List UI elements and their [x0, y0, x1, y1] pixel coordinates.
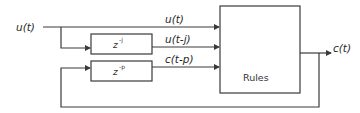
rules-label: Rules — [243, 72, 269, 83]
block-diagram: u(t) z -j z -p u(t) u(t-j) c(t-p) Rules … — [0, 0, 360, 113]
output-label: c(t) — [333, 42, 351, 54]
rules-block: Rules — [220, 6, 300, 93]
signal-label-c-t-p: c(t-p) — [165, 53, 194, 65]
delay-j-block: z -j — [91, 34, 152, 54]
delay-j-base: z — [112, 40, 118, 50]
delay-p-exponent: -p — [119, 63, 125, 71]
delay-j-exponent: -j — [119, 36, 123, 44]
input-label: u(t) — [16, 21, 35, 33]
branch-line-to-delay-j — [61, 27, 90, 48]
delay-p-base: z — [112, 67, 118, 77]
delay-p-block: z -p — [91, 61, 152, 81]
signal-label-u-t-j: u(t-j) — [165, 33, 191, 45]
signal-label-u-t: u(t) — [165, 13, 184, 25]
